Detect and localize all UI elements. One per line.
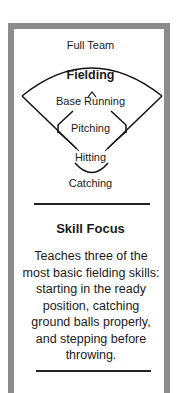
catching-label: Catching <box>0 177 181 189</box>
fielding-label: Fielding <box>0 68 181 82</box>
divider-bottom <box>36 370 151 372</box>
full-team-label: Full Team <box>0 39 181 51</box>
skill-focus-description: Teaches three of the most basic fielding… <box>22 248 160 364</box>
skill-focus-title: Skill Focus <box>0 221 181 236</box>
hitting-label: Hitting <box>0 151 181 163</box>
base-running-label: Base Running <box>0 95 181 107</box>
pitching-label: Pitching <box>0 122 181 134</box>
divider-top <box>34 203 150 205</box>
